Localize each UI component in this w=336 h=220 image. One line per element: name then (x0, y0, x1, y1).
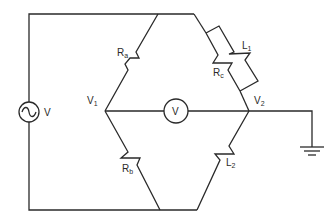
inductor-l1 (206, 26, 258, 91)
node-v1-label: V1 (87, 95, 98, 107)
bottom-wire (29, 122, 197, 210)
resistor-rc (206, 33, 240, 91)
resistor-ra (105, 14, 158, 111)
rb-label: Rb (122, 163, 133, 175)
rc-label: Rc (213, 67, 224, 79)
inductor-l2 (197, 111, 249, 210)
wire-top-right-in (194, 14, 206, 33)
bridge-circuit-diagram: V Ra Rb L1 Rc L2 V V1 V2 (0, 0, 336, 220)
wire-top-right-out (240, 91, 249, 111)
source-label: V (44, 107, 51, 118)
ground-wire (249, 111, 312, 147)
ac-source-icon (19, 102, 39, 122)
l1-label: L1 (242, 40, 252, 52)
ra-label: Ra (117, 47, 128, 59)
top-wire (29, 14, 194, 102)
ground-icon (300, 147, 324, 155)
node-v2-label: V2 (254, 95, 265, 107)
voltmeter-label: V (172, 106, 179, 117)
resistor-rb (105, 111, 160, 210)
l2-label: L2 (226, 157, 236, 169)
